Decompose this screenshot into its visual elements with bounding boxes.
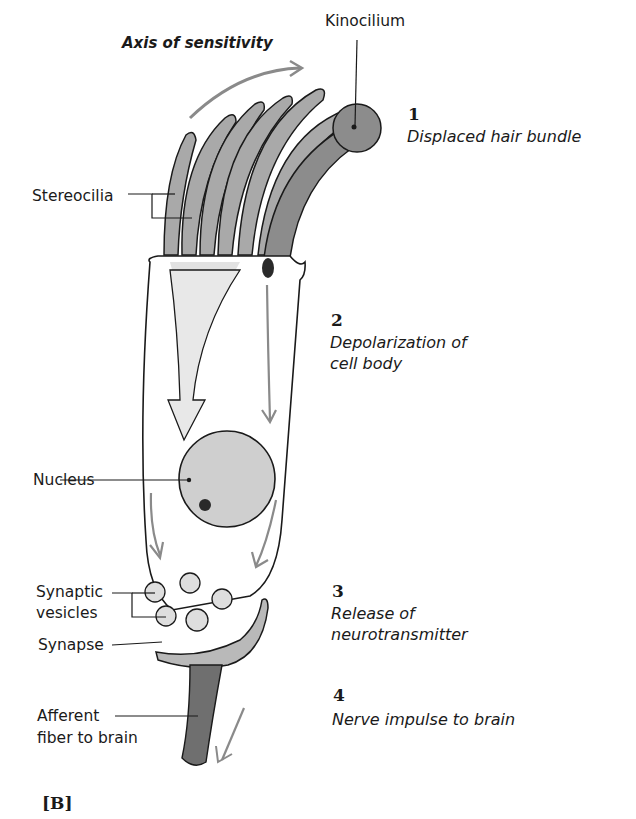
axis-of-sensitivity-label: Axis of sensitivity [122, 34, 273, 52]
step-4-number: 4 [333, 685, 345, 705]
hair-cell-diagram [0, 0, 636, 819]
step-3-text-1: Release of [331, 604, 415, 624]
kinocilium-tip [333, 104, 381, 152]
step-2-text-1: Depolarization of [330, 333, 467, 353]
step-2-number: 2 [331, 310, 343, 330]
panel-label: [B] [42, 793, 72, 813]
synaptic-vesicles-label-1: Synaptic [36, 583, 103, 602]
step-2-text-2: cell body [330, 354, 402, 374]
synapse-label: Synapse [38, 636, 104, 655]
step-1-text: Displaced hair bundle [407, 127, 581, 147]
nucleus [179, 431, 275, 527]
synaptic-vesicles-label-2: vesicles [36, 604, 98, 623]
step-1-number: 1 [408, 104, 420, 124]
stereocilia-label: Stereocilia [32, 187, 113, 206]
afferent-fiber-label-1: Afferent [37, 707, 99, 726]
afferent-fiber-label-2: fiber to brain [37, 729, 138, 748]
step-4-text: Nerve impulse to brain [332, 710, 515, 730]
kinocilium-label: Kinocilium [325, 12, 405, 31]
step-3-number: 3 [332, 581, 344, 601]
step-3-text-2: neurotransmitter [331, 625, 468, 645]
nucleus-label: Nucleus [33, 471, 95, 490]
